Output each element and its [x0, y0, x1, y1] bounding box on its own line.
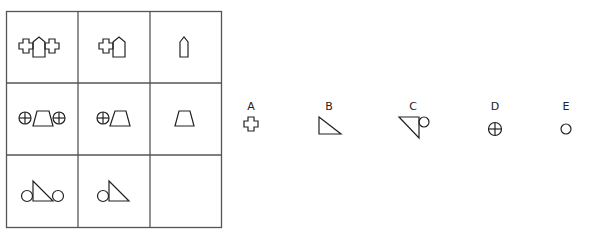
cell-r1c3-pentagon: [180, 37, 188, 57]
option-c-label: C: [403, 100, 423, 113]
option-e-label: E: [556, 100, 576, 113]
cell-r1c1-cross-pentagon-cross: [19, 37, 59, 57]
option-c-triangle-circle[interactable]: [399, 117, 429, 138]
option-d-label: D: [485, 100, 505, 113]
cell-r3c2-circle-triangle: [98, 181, 130, 202]
cell-r2c2-circlecross-trapezoid: [97, 111, 130, 126]
cell-r1c2-cross-pentagon: [99, 37, 125, 57]
matrix-grid: [6, 11, 222, 228]
option-e-circle[interactable]: [561, 124, 571, 134]
cell-r2c1-circlecross-trapezoid-circlecross: [19, 111, 65, 126]
option-b-label: B: [319, 100, 339, 113]
cell-r3c1-circle-triangle-circle: [22, 181, 64, 202]
option-a-cross[interactable]: [244, 117, 258, 131]
option-d-circle-cross[interactable]: [489, 123, 502, 136]
puzzle-stage: A B C D E: [0, 0, 589, 229]
cell-r2c3-trapezoid: [175, 111, 194, 126]
option-a-label: A: [241, 100, 261, 113]
option-b-right-triangle[interactable]: [319, 117, 341, 134]
